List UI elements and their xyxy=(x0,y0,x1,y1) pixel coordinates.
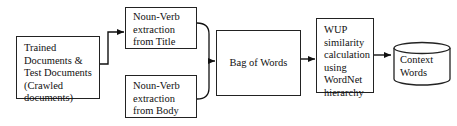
arrow-docs-to-title xyxy=(100,32,124,64)
node-line: Trained xyxy=(24,42,99,55)
node-line: Words xyxy=(400,67,433,80)
node-line: documents) xyxy=(24,92,99,105)
node-line: WordNet xyxy=(324,74,373,87)
node-line: using xyxy=(324,62,373,75)
documents-node: Trained Documents & Test Documents (Craw… xyxy=(16,36,100,99)
node-line: from Title xyxy=(133,36,196,49)
node-line: Noun-Verb xyxy=(133,80,196,93)
title-extraction-node: Noun-Verb extraction from Title xyxy=(125,7,197,49)
node-line: Context xyxy=(400,54,433,67)
wup-similarity-node: WUP similarity calculation using WordNet… xyxy=(316,18,374,93)
bag-of-words-node: Bag of Words xyxy=(216,30,301,96)
node-line: WUP xyxy=(324,24,373,37)
context-words-node: Context Words xyxy=(400,54,433,79)
node-line: Test Documents xyxy=(24,67,99,80)
node-line: from Body xyxy=(133,105,196,118)
brace-merge-connector xyxy=(197,23,209,99)
node-line: extraction xyxy=(133,24,196,37)
node-line: Bag of Words xyxy=(230,57,288,70)
node-line: calculation xyxy=(324,49,373,62)
node-line: similarity xyxy=(324,37,373,50)
node-line: Noun-Verb xyxy=(133,11,196,24)
node-line: Documents & xyxy=(24,55,99,68)
node-line: hierarchy xyxy=(324,87,373,100)
body-extraction-node: Noun-Verb extraction from Body xyxy=(125,75,197,118)
node-line: extraction xyxy=(133,93,196,106)
node-line: (Crawled xyxy=(24,80,99,93)
